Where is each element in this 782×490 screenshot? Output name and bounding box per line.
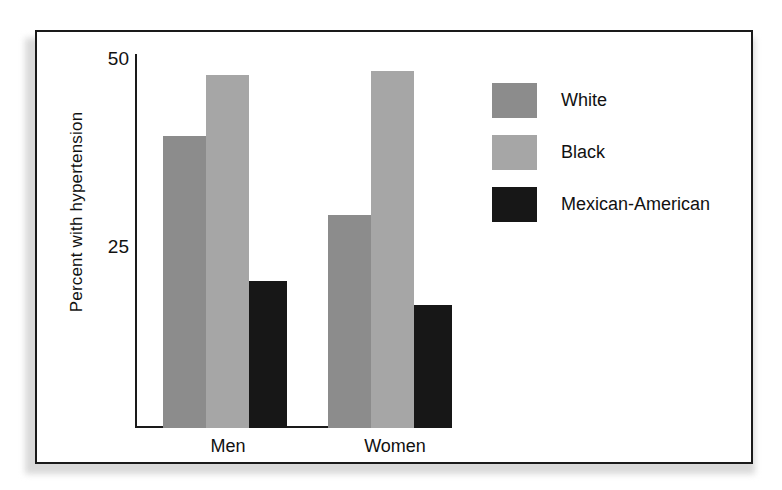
legend-label: Black [561, 142, 605, 163]
legend: WhiteBlackMexican-American [492, 74, 742, 230]
x-tick-label-men: Men [163, 436, 293, 457]
figure-root: Percent with hypertension 50 25 Men Wome… [0, 0, 782, 490]
legend-swatch-icon [492, 83, 537, 118]
bar-women-white [328, 215, 371, 428]
legend-label: White [561, 90, 607, 111]
bar-women-black [371, 71, 414, 428]
legend-swatch-icon [492, 187, 537, 222]
legend-item-mexican-american: Mexican-American [492, 178, 742, 230]
x-tick-label-women: Women [328, 436, 462, 457]
chart-frame: Percent with hypertension 50 25 Men Wome… [35, 30, 753, 464]
legend-item-black: Black [492, 126, 742, 178]
bar-men-mexican-american [249, 281, 287, 428]
legend-item-white: White [492, 74, 742, 126]
bar-women-mexican-american [414, 305, 452, 428]
legend-swatch-icon [492, 135, 537, 170]
bar-men-black [206, 75, 249, 428]
bar-men-white [163, 136, 206, 428]
legend-label: Mexican-American [561, 194, 710, 215]
